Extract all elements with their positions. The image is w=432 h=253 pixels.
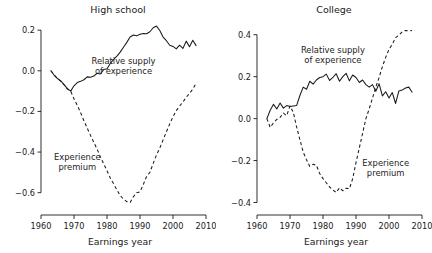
college-y-tick-label: −0.4: [231, 198, 251, 208]
x-axis-label-college: Earnings year: [304, 236, 368, 247]
series-high-school: [51, 26, 196, 202]
college-x-tick-label: 1980: [313, 221, 334, 231]
figure-container: High school 0.20.0−0.2−0.4−0.61960197019…: [0, 0, 432, 253]
panel-college: College 0.40.20.0−0.2−0.4196019701980199…: [216, 0, 432, 253]
high-school-x-tick-label: 2010: [196, 221, 216, 231]
college-x-tick-label: 1960: [247, 221, 268, 231]
high-school-y-tick-label: −0.6: [15, 188, 35, 198]
college-y-tick-label: 0.2: [238, 72, 251, 82]
college-annotation-label: of experience: [304, 55, 361, 65]
chart-college: College 0.40.20.0−0.2−0.4196019701980199…: [216, 0, 432, 253]
high-school-y-tick-label: 0.0: [22, 66, 35, 76]
panel-title-high-school: High school: [90, 4, 145, 15]
panel-title-college: College: [316, 4, 352, 15]
high-school-annotation-label: Experience: [54, 152, 101, 162]
college-x-tick-label: 1990: [346, 221, 367, 231]
college-y-tick-label: −0.2: [231, 156, 251, 166]
high-school-x-tick-label: 1980: [97, 221, 118, 231]
x-axis-label-high-school: Earnings year: [88, 236, 152, 247]
high-school-x-tick-label: 2000: [163, 221, 184, 231]
college-annotation-label: Experience: [362, 158, 409, 168]
college-y-tick-label: 0.4: [238, 30, 251, 40]
annotations-high-school: Relative supplyof experienceExperiencepr…: [54, 56, 156, 172]
high-school-annotation-label: of experience: [95, 66, 152, 76]
college-x-tick-label: 2000: [379, 221, 400, 231]
high-school-annotation-label: Relative supply: [91, 56, 155, 66]
high-school-x-tick-label: 1990: [130, 221, 151, 231]
panel-high-school: High school 0.20.0−0.2−0.4−0.61960197019…: [0, 0, 216, 253]
high-school-x-tick-label: 1960: [31, 221, 52, 231]
college-x-tick-label: 2010: [412, 221, 432, 231]
annotations-college: Relative supplyof experienceExperiencepr…: [301, 45, 409, 178]
college-y-tick-label: 0.0: [238, 114, 251, 124]
high-school-line-experience-premium: [51, 71, 196, 203]
college-x-tick-label: 1970: [280, 221, 301, 231]
college-annotation-label: Relative supply: [301, 45, 365, 55]
high-school-y-tick-label: −0.4: [15, 147, 35, 157]
high-school-annotation-label: premium: [58, 162, 96, 172]
college-line-relative-supply: [267, 73, 412, 118]
high-school-y-tick-label: −0.2: [15, 106, 35, 116]
high-school-y-tick-label: 0.2: [22, 25, 35, 35]
college-annotation-label: premium: [367, 168, 405, 178]
chart-high-school: High school 0.20.0−0.2−0.4−0.61960197019…: [0, 0, 216, 253]
high-school-x-tick-label: 1970: [64, 221, 85, 231]
